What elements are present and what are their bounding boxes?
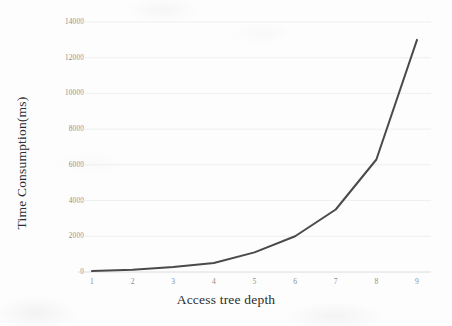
x-axis-tick-label: 9 xyxy=(406,277,428,286)
x-axis-tick-label: 4 xyxy=(203,277,225,286)
x-axis-tick-label: 2 xyxy=(122,277,144,286)
y-axis-tick-label: 12000 xyxy=(36,54,84,62)
y-axis-tick-label: 8000 xyxy=(36,125,84,133)
y-axis-tick-label: 0 xyxy=(36,268,84,276)
y-axis-tick-label: 10000 xyxy=(36,89,84,97)
y-axis-title-text: Time Consumption(ms) xyxy=(14,97,30,230)
x-axis-tick-label: 7 xyxy=(325,277,347,286)
x-axis-title: Access tree depth xyxy=(0,292,452,308)
y-axis-tick-label: 4000 xyxy=(36,197,84,205)
data-series-layer xyxy=(78,12,431,284)
y-axis-tick-label: 2000 xyxy=(36,232,84,240)
y-axis-tick-label: 6000 xyxy=(36,161,84,169)
x-axis-tick-label: 5 xyxy=(244,277,266,286)
x-axis-tick-label: 1 xyxy=(81,277,103,286)
x-axis-title-text: Access tree depth xyxy=(177,292,276,307)
chart-figure: Time Consumption(ms) 0200040006000800010… xyxy=(0,0,452,326)
plot-area xyxy=(92,22,417,272)
x-axis-tick-label: 3 xyxy=(162,277,184,286)
x-axis-tick-label: 6 xyxy=(284,277,306,286)
y-axis-tick-label: 14000 xyxy=(36,18,84,26)
x-axis-tick-label: 8 xyxy=(365,277,387,286)
data-line-time-consumption xyxy=(92,40,417,271)
x-axis-tick-labels: 123456789 xyxy=(0,277,452,291)
